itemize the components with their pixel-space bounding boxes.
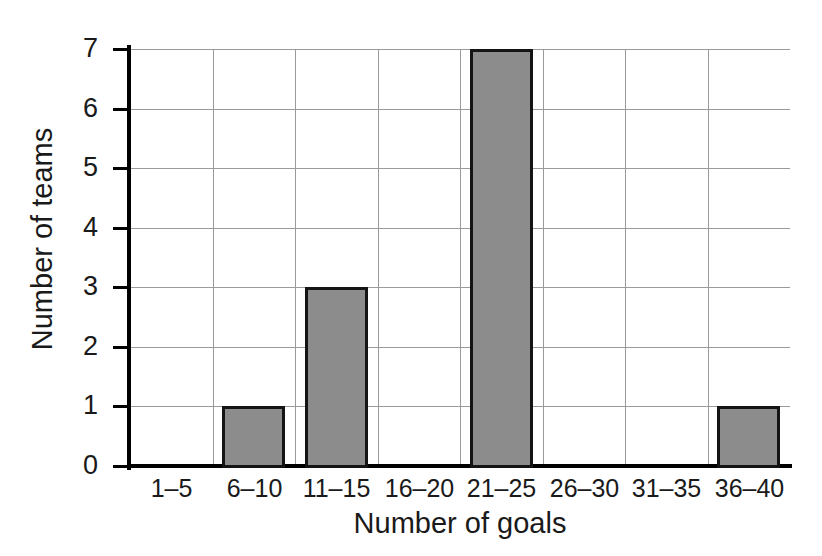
x-axis-tick-label: 1–5 — [130, 474, 213, 502]
y-axis-tick-label: 5 — [38, 154, 98, 181]
y-axis-tick-label: 4 — [38, 214, 98, 241]
gridline-vertical — [460, 49, 461, 466]
y-axis-tick — [113, 346, 128, 349]
histogram-chart: Number of goals Number of teams 01234567… — [0, 0, 822, 556]
y-axis-tick-label: 0 — [38, 452, 98, 479]
bar — [222, 406, 285, 468]
gridline-vertical — [378, 49, 379, 466]
y-axis-tick-label: 3 — [38, 273, 98, 300]
bar — [717, 406, 780, 468]
x-axis-tick-label: 31–35 — [625, 474, 708, 502]
bar — [470, 49, 533, 468]
y-axis-tick-label: 6 — [38, 95, 98, 122]
x-axis-tick-label: 21–25 — [460, 474, 543, 502]
x-axis-tick-label: 16–20 — [378, 474, 461, 502]
bar — [305, 287, 368, 468]
y-axis-tick — [113, 108, 128, 111]
y-axis-tick-label: 1 — [38, 392, 98, 419]
y-axis-tick — [113, 286, 128, 289]
gridline-vertical — [295, 49, 296, 466]
x-axis-tick-label: 6–10 — [213, 474, 296, 502]
y-axis-tick — [113, 405, 128, 408]
x-axis-tick-label: 11–15 — [295, 474, 378, 502]
gridline-vertical — [213, 49, 214, 466]
x-axis-title: Number of goals — [130, 506, 790, 540]
x-axis-tick-label: 36–40 — [708, 474, 791, 502]
gridline-vertical — [543, 49, 544, 466]
gridline-vertical — [625, 49, 626, 466]
y-axis-tick-label: 2 — [38, 333, 98, 360]
x-axis-tick-label: 26–30 — [543, 474, 626, 502]
plot-area — [130, 49, 790, 466]
y-axis-tick — [113, 48, 128, 51]
gridline-vertical — [708, 49, 709, 466]
y-axis-tick — [113, 227, 128, 230]
y-axis-tick — [113, 167, 128, 170]
y-axis-tick — [113, 465, 128, 468]
y-axis-tick-label: 7 — [38, 35, 98, 62]
